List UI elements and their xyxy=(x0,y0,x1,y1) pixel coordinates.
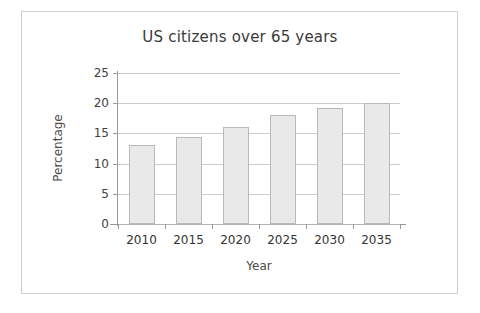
x-tick-mark xyxy=(118,224,119,229)
y-tick-label: 5 xyxy=(101,187,109,201)
x-tick-label: 2025 xyxy=(267,233,298,247)
x-tick-label: 2035 xyxy=(361,233,392,247)
gridline xyxy=(118,103,400,104)
bar xyxy=(129,145,155,224)
y-axis-title: Percentage xyxy=(51,114,65,182)
bar xyxy=(176,137,202,224)
y-tick-label: 20 xyxy=(94,96,109,110)
y-tick-mark xyxy=(113,133,118,134)
bar xyxy=(270,115,296,224)
x-tick-label: 2015 xyxy=(173,233,204,247)
x-tick-mark xyxy=(353,224,354,229)
x-tick-mark xyxy=(212,224,213,229)
chart-title: US citizens over 65 years xyxy=(0,28,480,46)
x-axis-title: Year xyxy=(118,259,400,273)
x-tick-label: 2020 xyxy=(220,233,251,247)
x-tick-mark xyxy=(306,224,307,229)
gridline xyxy=(118,194,400,195)
y-tick-label: 25 xyxy=(94,66,109,80)
y-tick-mark xyxy=(113,73,118,74)
gridline xyxy=(118,164,400,165)
gridline xyxy=(118,133,400,134)
chart-figure: US citizens over 65 years Percentage 051… xyxy=(0,0,480,313)
y-tick-mark xyxy=(113,194,118,195)
x-tick-label: 2010 xyxy=(126,233,157,247)
y-tick-label: 10 xyxy=(94,157,109,171)
y-tick-label: 0 xyxy=(101,217,109,231)
x-tick-label: 2030 xyxy=(314,233,345,247)
x-tick-mark xyxy=(259,224,260,229)
y-tick-label: 15 xyxy=(94,126,109,140)
bar xyxy=(364,103,390,224)
bar xyxy=(317,108,343,224)
x-tick-mark xyxy=(165,224,166,229)
bar xyxy=(223,127,249,224)
plot-area: 0510152025 xyxy=(118,73,400,224)
y-tick-mark xyxy=(113,103,118,104)
y-tick-mark xyxy=(113,164,118,165)
gridline xyxy=(118,73,400,74)
x-tick-mark xyxy=(400,224,401,229)
